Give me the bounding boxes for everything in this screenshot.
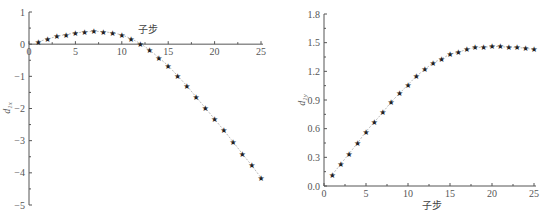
left-chart: 10−1−2−3−4−50510152025子步d1x★★★★★★★★★★★★★…: [1, 7, 266, 211]
x-axis-label: 子步: [138, 24, 158, 35]
y-tick-label: 1: [20, 7, 25, 18]
y-tick-label: −1: [14, 71, 25, 82]
y-tick-label: −4: [14, 167, 25, 178]
y-tick-label: 0.0: [308, 181, 321, 192]
x-axis-label: 子步: [422, 200, 442, 211]
x-tick-label: 0: [27, 46, 32, 57]
y-tick-label: 1.2: [308, 66, 321, 77]
data-point-star: ★: [480, 43, 487, 52]
data-point-star: ★: [257, 174, 264, 183]
data-point-star: ★: [239, 150, 246, 159]
data-point-star: ★: [346, 150, 353, 159]
y-tick-label: 0.3: [308, 152, 321, 163]
y-tick-label: −2: [14, 103, 25, 114]
data-point-star: ★: [174, 72, 181, 81]
data-point-star: ★: [329, 171, 336, 180]
data-point-star: ★: [514, 43, 521, 52]
data-point-star: ★: [90, 27, 97, 36]
data-point-star: ★: [202, 104, 209, 113]
data-point-star: ★: [505, 43, 512, 52]
x-tick-label: 20: [487, 188, 497, 199]
data-point-star: ★: [100, 28, 107, 37]
data-point-star: ★: [446, 50, 453, 59]
data-point-star: ★: [230, 138, 237, 147]
data-point-star: ★: [165, 62, 172, 71]
data-point-star: ★: [438, 55, 445, 64]
data-point-star: ★: [396, 89, 403, 98]
y-tick-label: −5: [14, 200, 25, 211]
figure: 10−1−2−3−4−50510152025子步d1x★★★★★★★★★★★★★…: [0, 0, 542, 221]
data-point-star: ★: [530, 45, 537, 54]
data-point-star: ★: [155, 54, 162, 63]
data-point-star: ★: [522, 44, 529, 53]
data-point-star: ★: [497, 42, 504, 51]
y-axis-label: d1x: [1, 101, 14, 114]
data-point-star: ★: [35, 38, 42, 47]
data-point-star: ★: [63, 31, 70, 40]
data-point-star: ★: [413, 72, 420, 81]
x-tick-label: 10: [117, 46, 127, 57]
data-point-star: ★: [81, 28, 88, 37]
data-point-star: ★: [137, 40, 144, 49]
data-point-star: ★: [53, 32, 60, 41]
data-point-star: ★: [146, 46, 153, 55]
data-point-star: ★: [421, 65, 428, 74]
data-point-star: ★: [472, 43, 479, 52]
y-tick-label: −3: [14, 135, 25, 146]
x-tick-label: 15: [163, 46, 173, 57]
data-point-star: ★: [388, 98, 395, 107]
x-tick-label: 25: [256, 46, 266, 57]
y-tick-label: 1.5: [308, 37, 321, 48]
data-point-star: ★: [371, 118, 378, 127]
data-point-star: ★: [109, 29, 116, 38]
data-point-star: ★: [72, 29, 79, 38]
right-chart: 0.00.30.60.91.21.51.80510152025子步d1y★★★★…: [296, 9, 539, 212]
y-tick-label: 0.6: [308, 123, 321, 134]
data-point-star: ★: [379, 108, 386, 117]
x-tick-label: 15: [445, 188, 455, 199]
data-point-star: ★: [463, 45, 470, 54]
x-tick-label: 25: [529, 188, 539, 199]
x-tick-label: 5: [73, 46, 78, 57]
data-point-star: ★: [404, 81, 411, 90]
data-point-star: ★: [362, 128, 369, 137]
x-tick-label: 5: [364, 188, 369, 199]
data-point-star: ★: [337, 160, 344, 169]
data-point-star: ★: [248, 161, 255, 170]
data-point-star: ★: [192, 93, 199, 102]
data-point-star: ★: [211, 115, 218, 124]
x-tick-label: 10: [403, 188, 413, 199]
y-tick-label: 0.9: [308, 95, 321, 106]
y-tick-label: 0: [20, 39, 25, 50]
x-tick-label: 0: [322, 188, 327, 199]
y-tick-label: 1.8: [308, 9, 321, 20]
data-point-star: ★: [127, 35, 134, 44]
data-point-star: ★: [44, 35, 51, 44]
data-point-star: ★: [430, 59, 437, 68]
data-point-star: ★: [183, 82, 190, 91]
data-point-star: ★: [354, 139, 361, 148]
x-tick-label: 20: [210, 46, 220, 57]
data-point-star: ★: [220, 126, 227, 135]
data-point-star: ★: [488, 42, 495, 51]
data-point-star: ★: [455, 48, 462, 57]
data-point-star: ★: [118, 31, 125, 40]
